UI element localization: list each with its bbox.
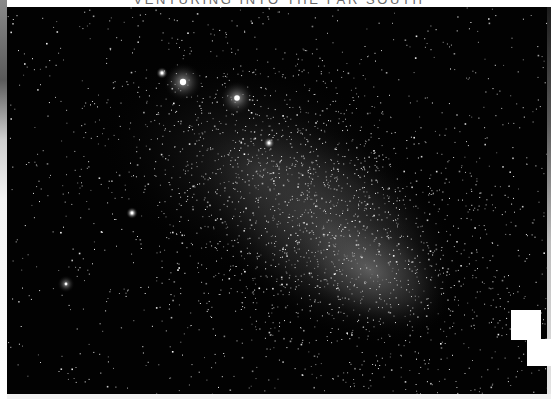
white-overlay-block — [527, 339, 551, 366]
page-header: VENTURING INTO THE FAR SOUTH — [7, 0, 551, 7]
white-overlay-block — [511, 310, 541, 340]
starfield-image — [7, 7, 547, 394]
bottom-frame-edge — [7, 394, 551, 399]
galaxy-photo — [7, 7, 547, 394]
page-title: VENTURING INTO THE FAR SOUTH — [7, 0, 551, 7]
left-frame-edge — [0, 0, 7, 399]
